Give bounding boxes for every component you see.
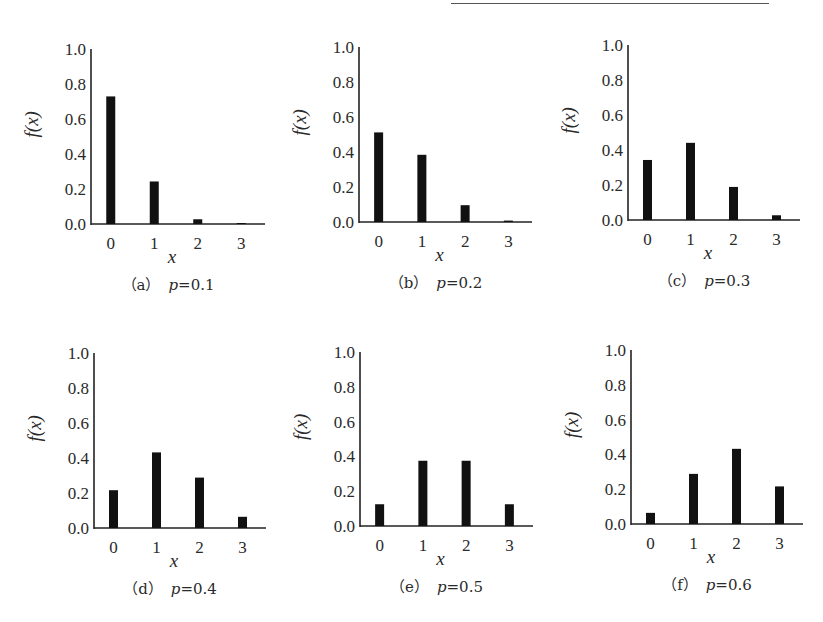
- x-tick-label: 3: [775, 534, 784, 553]
- y-axis-label: f(x): [561, 412, 583, 438]
- panel-caption: （f）p=0.6: [662, 576, 752, 594]
- x-tick-label: 0: [646, 534, 655, 553]
- panel-tag: （f）: [662, 576, 698, 594]
- y-tick-label: 0.4: [605, 445, 627, 464]
- y-tick-label: 0.8: [605, 376, 626, 395]
- x-tick-label: 2: [732, 534, 741, 553]
- bar-x2: [732, 449, 741, 524]
- y-tick-label: 1.0: [605, 341, 626, 360]
- bar-x0: [646, 513, 655, 524]
- chart-panel-f: 0.00.20.40.60.81.0f(x)0123x（f）p=0.6: [0, 0, 230, 260]
- bar-x1: [689, 474, 698, 524]
- y-tick-label: 0.6: [605, 411, 626, 430]
- y-tick-label: 0.2: [605, 480, 626, 499]
- param-symbol: p: [706, 576, 716, 594]
- x-tick-label: 1: [689, 534, 698, 553]
- param-value: =0.6: [715, 576, 751, 594]
- bar-x3: [775, 486, 784, 524]
- y-tick-label: 0.0: [605, 515, 626, 534]
- x-axis-label: x: [706, 546, 716, 567]
